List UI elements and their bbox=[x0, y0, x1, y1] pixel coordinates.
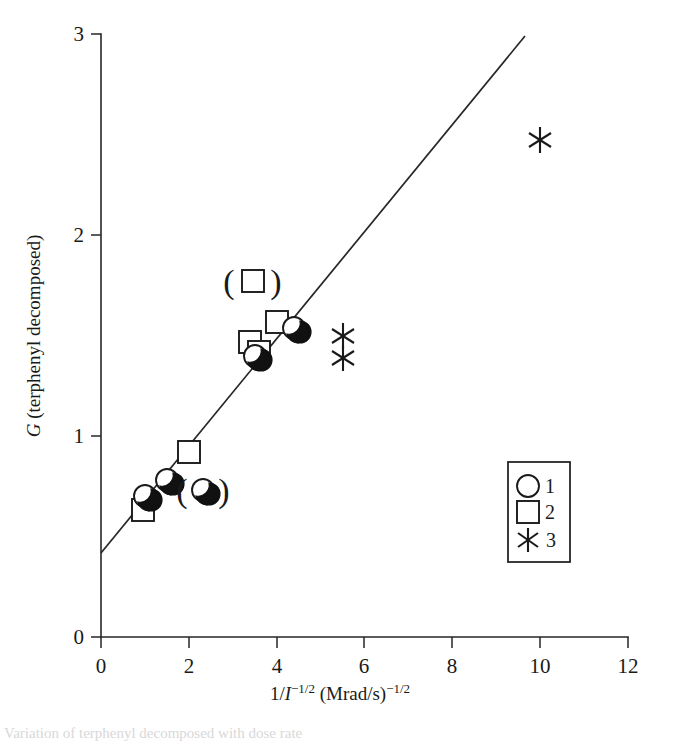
x-tick-label-4: 4 bbox=[272, 654, 283, 678]
data-point-asterisk bbox=[529, 127, 551, 153]
figure-caption: Variation of terphenyl decomposed with d… bbox=[0, 720, 673, 746]
x-tick-label-12: 12 bbox=[618, 654, 639, 678]
x-axis-ticks: 0 2 4 6 8 10 12 bbox=[96, 637, 639, 678]
y-axis-title-symbol: G bbox=[23, 423, 44, 437]
x-tick-label-6: 6 bbox=[359, 654, 370, 678]
x-tick-label-8: 8 bbox=[447, 654, 458, 678]
y-tick-label-3: 3 bbox=[74, 22, 85, 46]
paren-left: ( bbox=[223, 263, 234, 301]
paren-right: ) bbox=[270, 263, 281, 301]
x-axis-title: 1/I−1/2 (Mrad/s)−1/2 bbox=[270, 681, 410, 705]
legend-item-1[interactable]: 1 bbox=[517, 475, 555, 497]
legend-label-2: 2 bbox=[545, 501, 555, 523]
y-tick-label-2: 2 bbox=[74, 223, 85, 247]
x-tick-label-10: 10 bbox=[530, 654, 551, 678]
y-tick-label-1: 1 bbox=[74, 424, 85, 448]
data-point-square bbox=[242, 270, 264, 292]
annotation-parenthesized-square: ( ) bbox=[223, 263, 281, 301]
data-point-half-circle bbox=[283, 317, 311, 343]
svg-text:G (terphenyl decomposed): G (terphenyl decomposed) bbox=[23, 235, 45, 438]
y-axis-title-text: (terphenyl decomposed) bbox=[23, 235, 45, 424]
svg-text:1/I−1/2 (Mrad/s)−1/2: 1/I−1/2 (Mrad/s)−1/2 bbox=[270, 681, 410, 705]
legend: 1 2 3 bbox=[508, 462, 570, 562]
data-point-asterisk bbox=[332, 345, 354, 371]
data-point-square bbox=[178, 441, 200, 463]
y-tick-label-0: 0 bbox=[74, 625, 85, 649]
legend-label-1: 1 bbox=[545, 475, 555, 497]
circle-icon bbox=[517, 475, 539, 497]
x-axis-title-prefix: 1/ bbox=[270, 683, 286, 704]
data-point-half-circle bbox=[192, 479, 220, 505]
series-3-points bbox=[332, 127, 551, 371]
annotation-parenthesized-circle: ( ) bbox=[176, 472, 229, 510]
x-tick-label-2: 2 bbox=[184, 654, 195, 678]
x-axis-title-exponent-1: −1/2 bbox=[291, 681, 315, 696]
paren-left: ( bbox=[176, 472, 187, 510]
x-axis-title-units: (Mrad/s) bbox=[315, 683, 386, 705]
legend-item-2[interactable]: 2 bbox=[517, 501, 555, 523]
figure-container: 3 2 1 0 0 2 4 6 8 10 12 G (terphenyl dec… bbox=[0, 0, 673, 746]
y-axis-title: G (terphenyl decomposed) bbox=[23, 235, 45, 438]
paren-right: ) bbox=[218, 472, 229, 510]
x-tick-label-0: 0 bbox=[96, 654, 107, 678]
scatter-plot: 3 2 1 0 0 2 4 6 8 10 12 G (terphenyl dec… bbox=[0, 0, 673, 746]
square-icon bbox=[517, 501, 539, 523]
x-axis-title-exponent-2: −1/2 bbox=[386, 681, 410, 696]
legend-label-3: 3 bbox=[546, 529, 556, 551]
y-axis-ticks: 3 2 1 0 bbox=[74, 22, 102, 649]
